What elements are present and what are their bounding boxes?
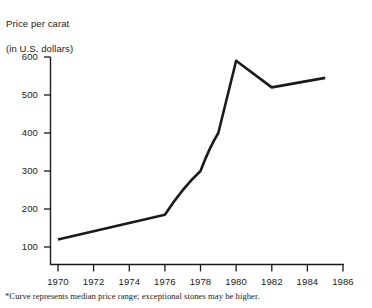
y-tick-label-600: 600: [8, 51, 38, 62]
chart-plot-area: [0, 0, 372, 308]
y-tick-label-500: 500: [8, 89, 38, 100]
price-curve: [58, 61, 325, 240]
y-tick-label-300: 300: [8, 165, 38, 176]
x-tick-label-1972: 1972: [77, 276, 111, 287]
x-tick-label-1976: 1976: [148, 276, 182, 287]
y-tick-label-200: 200: [8, 203, 38, 214]
x-axis-ticks: [58, 265, 343, 272]
x-tick-label-1970: 1970: [41, 276, 75, 287]
x-tick-label-1986: 1986: [326, 276, 360, 287]
x-tick-label-1980: 1980: [219, 276, 253, 287]
x-tick-label-1982: 1982: [255, 276, 289, 287]
x-tick-label-1974: 1974: [112, 276, 146, 287]
y-tick-label-100: 100: [8, 241, 38, 252]
chart-footnote: *Curve represents median price range; ex…: [5, 291, 260, 301]
y-tick-label-400: 400: [8, 127, 38, 138]
x-tick-label-1978: 1978: [184, 276, 218, 287]
price-per-carat-chart: Price per carat (in U.S. dollars): [0, 0, 372, 308]
y-axis-ticks: [44, 57, 51, 247]
x-tick-label-1984: 1984: [290, 276, 324, 287]
